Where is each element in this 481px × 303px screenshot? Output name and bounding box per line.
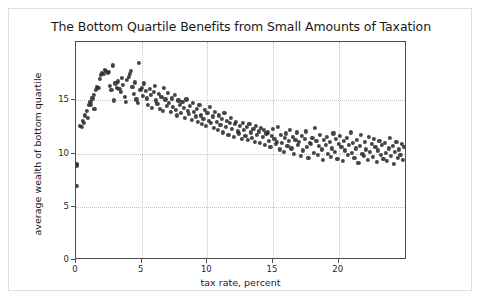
scatter-point: [267, 139, 271, 143]
scatter-point: [344, 136, 348, 140]
scatter-point: [153, 83, 157, 87]
x-tick-mark: [206, 259, 207, 263]
x-tick-mark: [141, 259, 142, 263]
scatter-point: [209, 121, 213, 125]
scatter-point: [195, 107, 199, 111]
scatter-point: [275, 140, 279, 144]
scatter-point: [208, 105, 212, 109]
scatter-point: [239, 137, 243, 141]
scatter-point: [230, 127, 234, 131]
scatter-point: [220, 116, 224, 120]
x-tick-label: 10: [201, 264, 212, 274]
scatter-point: [388, 136, 392, 140]
x-tick-label: 15: [267, 264, 278, 274]
y-tick-mark: [71, 206, 75, 207]
scatter-point: [302, 137, 306, 141]
y-tick-mark: [71, 259, 75, 260]
scatter-point: [394, 140, 398, 144]
scatter-point: [306, 156, 310, 160]
scatter-point: [107, 70, 111, 74]
scatter-point: [392, 162, 396, 166]
scatter-point: [167, 101, 171, 105]
scatter-point: [183, 115, 187, 119]
scatter-point: [121, 82, 125, 86]
scatter-point: [241, 121, 245, 125]
scatter-point: [348, 130, 352, 134]
scatter-point: [383, 141, 387, 145]
scatter-point: [295, 130, 299, 134]
scatter-point: [334, 137, 338, 141]
scatter-point: [247, 122, 251, 126]
scatter-point: [228, 121, 232, 125]
scatter-point: [172, 93, 176, 97]
scatter-point: [309, 142, 313, 146]
gridline-y-5: [76, 207, 405, 208]
gridline-y-10: [76, 154, 405, 155]
scatter-point: [299, 154, 303, 158]
scatter-point: [193, 114, 197, 118]
scatter-point: [372, 137, 376, 141]
scatter-point: [402, 145, 406, 149]
scatter-point: [351, 141, 355, 145]
scatter-point: [137, 61, 141, 65]
scatter-point: [124, 99, 128, 103]
scatter-point: [234, 120, 238, 124]
y-tick-mark: [71, 153, 75, 154]
scatter-point: [232, 135, 236, 139]
scatter-point: [112, 98, 116, 102]
scatter-point: [331, 131, 335, 135]
gridline-x-20: [339, 42, 340, 258]
scatter-point: [84, 109, 88, 113]
scatter-point: [338, 133, 342, 137]
chart-title: The Bottom Quartile Benefits from Small …: [9, 19, 473, 34]
figure-frame: The Bottom Quartile Benefits from Small …: [8, 8, 472, 291]
x-tick-mark: [272, 259, 273, 263]
scatter-point: [375, 160, 379, 164]
scatter-point: [359, 132, 363, 136]
scatter-point: [367, 135, 371, 139]
scatter-point: [132, 92, 136, 96]
scatter-point: [222, 111, 226, 115]
scatter-point: [304, 129, 308, 133]
scatter-point: [320, 147, 324, 151]
scatter-point: [398, 153, 402, 157]
scatter-point: [365, 158, 369, 162]
scatter-point: [129, 69, 133, 73]
scatter-point: [221, 130, 225, 134]
x-tick-mark: [338, 259, 339, 263]
plot-area: [75, 41, 406, 259]
scatter-point: [189, 118, 193, 122]
scatter-point: [86, 115, 90, 119]
gridline-x-5: [142, 42, 143, 258]
x-tick-label: 0: [72, 264, 77, 274]
scatter-point: [130, 85, 134, 89]
scatter-point: [327, 140, 331, 144]
scatter-point: [166, 91, 170, 95]
scatter-point: [98, 77, 102, 81]
scatter-point: [321, 158, 325, 162]
scatter-point: [254, 124, 258, 128]
scatter-point: [82, 121, 86, 125]
scatter-point: [150, 106, 154, 110]
scatter-point: [297, 140, 301, 144]
scatter-point: [318, 132, 322, 136]
scatter-point: [142, 81, 146, 85]
scatter-point: [187, 112, 191, 116]
scatter-point: [155, 102, 159, 106]
scatter-point: [258, 141, 262, 145]
y-axis-label: average wealth of bottom quartile: [32, 76, 43, 236]
scatter-point: [210, 114, 214, 118]
scatter-point: [119, 90, 123, 94]
scatter-point: [75, 183, 79, 187]
scatter-point: [284, 131, 288, 135]
scatter-point: [356, 161, 360, 165]
scatter-point: [276, 125, 280, 129]
scatter-point: [218, 123, 222, 127]
scatter-point: [260, 135, 264, 139]
y-tick-label: 5: [43, 201, 69, 211]
scatter-point: [301, 148, 305, 152]
scatter-point: [329, 155, 333, 159]
scatter-point: [314, 139, 318, 143]
x-tick-mark: [75, 259, 76, 263]
scatter-point: [201, 116, 205, 120]
